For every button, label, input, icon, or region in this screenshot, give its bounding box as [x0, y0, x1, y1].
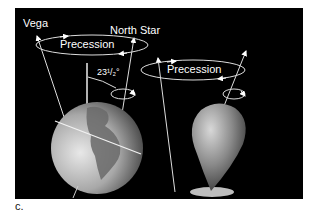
vega-label: Vega [23, 17, 48, 29]
figure-panel: Vega North Star Precession 23¹/₂° Preces… [15, 8, 303, 199]
precession-label-left: Precession [60, 38, 114, 50]
earth-diagram [36, 35, 148, 198]
tilt-angle-label: 23¹/₂° [97, 67, 120, 77]
figure-caption: c. [15, 200, 24, 212]
diagram-graphics [15, 8, 303, 199]
precession-label-right: Precession [167, 63, 221, 75]
north-star-label: North Star [110, 24, 160, 36]
